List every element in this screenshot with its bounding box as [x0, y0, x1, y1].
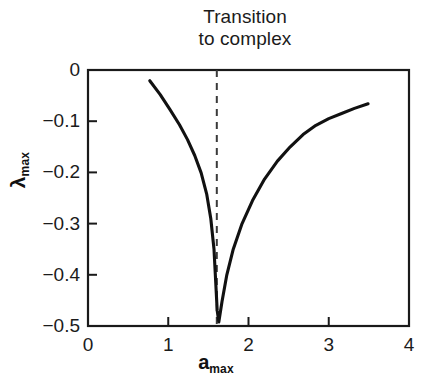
lambda-max-curve — [150, 81, 368, 322]
tick-marks — [88, 121, 329, 326]
data-curve — [150, 81, 368, 322]
axes-frame — [88, 70, 409, 326]
chart-figure: Transition to complex Transition to comp… — [0, 0, 432, 389]
plot-area — [0, 0, 432, 389]
axes-frame-rect — [88, 70, 409, 326]
